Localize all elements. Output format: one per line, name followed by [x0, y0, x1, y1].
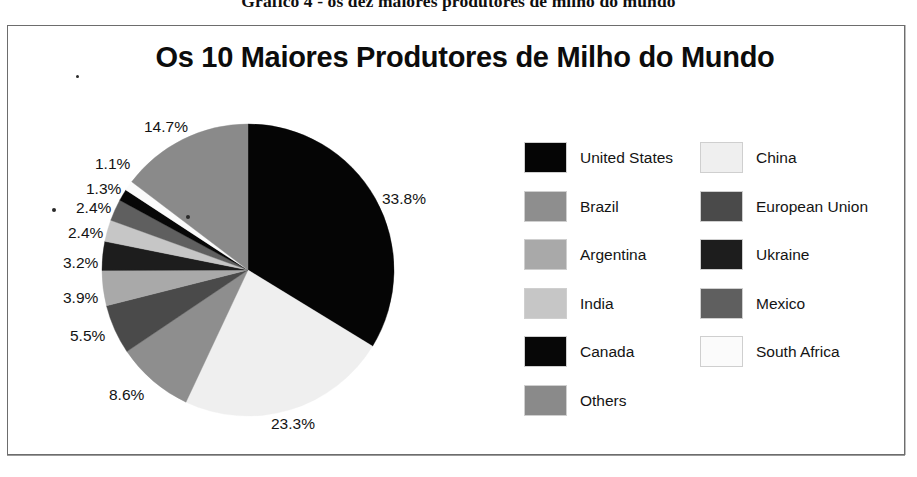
pie-value-label: 1.1%	[95, 155, 130, 173]
pie-value-label: 5.5%	[70, 327, 105, 345]
legend-swatch	[524, 142, 567, 173]
pie-value-label: 2.4%	[76, 199, 111, 217]
legend-swatch	[524, 191, 567, 222]
legend-swatch	[700, 239, 743, 270]
legend-swatch	[700, 288, 743, 319]
figure-caption: Gráfico 4 - os dez maiores produtores de…	[0, 0, 917, 12]
chart-legend: United StatesBrazilArgentinaIndiaCanadaO…	[524, 140, 894, 410]
legend-swatch	[524, 288, 567, 319]
pie-value-label: 3.9%	[63, 289, 98, 307]
legend-swatch	[524, 336, 567, 367]
pie-value-label: 8.6%	[109, 386, 144, 404]
legend-item-label: European Union	[756, 198, 868, 216]
legend-swatch	[700, 336, 743, 367]
pie-value-label: 1.3%	[86, 180, 121, 198]
pie-value-label: 2.4%	[68, 224, 103, 242]
legend-item-label: Mexico	[756, 295, 805, 313]
legend-item-label: Brazil	[580, 198, 619, 216]
legend-item-label: Others	[580, 392, 627, 410]
scan-speck-icon	[186, 215, 190, 219]
pie-value-label: 3.2%	[63, 254, 98, 272]
legend-item-label: India	[580, 295, 614, 313]
pie-value-label: 33.8%	[382, 190, 426, 208]
legend-swatch	[524, 239, 567, 270]
legend-item-label: United States	[580, 149, 673, 167]
scan-speck-icon	[52, 208, 56, 212]
legend-swatch	[700, 191, 743, 222]
legend-swatch	[524, 385, 567, 416]
legend-item-label: South Africa	[756, 343, 840, 361]
pie-value-label: 23.3%	[271, 415, 315, 433]
legend-item-label: Ukraine	[756, 246, 809, 264]
scan-speck-icon	[76, 75, 79, 78]
chart-title: Os 10 Maiores Produtores de Milho do Mun…	[100, 41, 830, 74]
legend-item-label: Canada	[580, 343, 634, 361]
pie-value-label: 14.7%	[144, 118, 188, 136]
legend-item-label: Argentina	[580, 246, 646, 264]
legend-swatch	[700, 142, 743, 173]
legend-item-label: China	[756, 149, 797, 167]
